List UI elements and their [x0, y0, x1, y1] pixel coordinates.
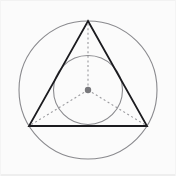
equilateral-triangle	[29, 21, 147, 126]
center-point-dot	[85, 87, 91, 93]
geometry-diagram: Equilateral triangle with circumscribed …	[0, 0, 176, 176]
geometric-figure-canvas: Equilateral triangle with circumscribed …	[0, 0, 176, 176]
